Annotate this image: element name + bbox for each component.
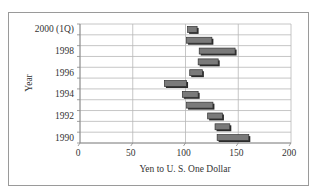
y-tick-label: 1994 bbox=[55, 89, 74, 99]
range-bar bbox=[182, 91, 199, 98]
bar-series bbox=[164, 26, 250, 142]
y-tick-labels: 199019921994199619982000 (1Q) bbox=[35, 24, 75, 142]
range-bar bbox=[217, 135, 250, 142]
x-tick-label: 100 bbox=[176, 148, 191, 158]
y-tick-label: 1992 bbox=[55, 111, 74, 121]
y-tick-label: 2000 (1Q) bbox=[35, 24, 74, 35]
y-tick-label: 1996 bbox=[55, 68, 74, 78]
x-tick-label: 200 bbox=[282, 148, 297, 158]
range-bar bbox=[190, 70, 204, 77]
y-axis-title: Year bbox=[24, 73, 34, 91]
range-bar bbox=[187, 37, 214, 44]
range-bar bbox=[215, 124, 231, 131]
range-bar bbox=[208, 113, 224, 120]
y-tick-label: 1998 bbox=[55, 46, 74, 56]
range-bar bbox=[188, 26, 199, 33]
x-tick-label: 0 bbox=[76, 148, 81, 158]
x-tick-label: 50 bbox=[126, 148, 136, 158]
range-bar bbox=[198, 59, 220, 66]
range-bar bbox=[199, 48, 236, 55]
range-bar bbox=[164, 81, 188, 88]
x-tick-labels: 050100150200 bbox=[76, 148, 297, 158]
x-axis-title: Yen to U. S. One Dollar bbox=[139, 164, 231, 174]
range-bar bbox=[187, 102, 215, 109]
x-tick-label: 150 bbox=[229, 148, 244, 158]
y-tick-label: 1990 bbox=[55, 133, 74, 143]
range-bar-chart: 199019921994199619982000 (1Q) 0501001502… bbox=[0, 0, 317, 189]
